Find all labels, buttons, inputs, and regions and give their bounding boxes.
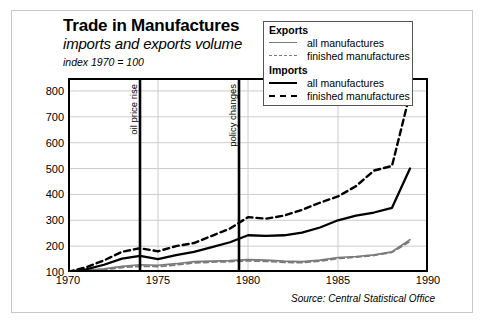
legend-item-imports-finished: finished manufactures: [269, 89, 412, 102]
plot-area: [68, 78, 428, 272]
legend-item-exports-all: all manufactures: [269, 36, 412, 49]
source-note: Source: Central Statistical Office: [291, 293, 435, 304]
x-tick-label: 1970: [56, 274, 80, 286]
y-axis-ticks: 100200300400500600700800: [30, 78, 64, 272]
y-tick-label: 600: [46, 137, 64, 149]
legend-swatch-exports-finished-icon: [269, 51, 297, 61]
y-tick-label: 800: [46, 85, 64, 97]
legend-label-imports-all: all manufactures: [307, 77, 384, 89]
legend-item-imports-all: all manufactures: [269, 76, 412, 89]
y-tick-label: 700: [46, 111, 64, 123]
x-tick-label: 1985: [326, 274, 350, 286]
legend-label-imports-finished: finished manufactures: [307, 90, 410, 102]
y-tick-label: 300: [46, 214, 64, 226]
x-tick-label: 1990: [416, 274, 440, 286]
chart-title: Trade in Manufactures: [63, 16, 239, 36]
x-tick-label: 1975: [146, 274, 170, 286]
annotation-label: oil price rise: [128, 84, 139, 135]
x-axis-ticks: 19701975198019851990: [0, 274, 485, 290]
legend-heading-exports: Exports: [269, 24, 412, 36]
plot-svg: [68, 78, 428, 272]
legend-swatch-exports-all-icon: [269, 38, 297, 48]
x-tick-label: 1980: [236, 274, 260, 286]
y-tick-label: 500: [46, 163, 64, 175]
chart-figure: Trade in Manufactures imports and export…: [0, 0, 485, 331]
index-note: index 1970 = 100: [63, 56, 144, 68]
legend-item-exports-finished: finished manufactures: [269, 49, 412, 62]
legend-heading-imports: Imports: [269, 64, 412, 76]
annotation-label: policy changes: [227, 84, 238, 147]
y-tick-label: 200: [46, 240, 64, 252]
legend: Exports all manufactures finished manufa…: [263, 21, 413, 106]
y-tick-label: 400: [46, 188, 64, 200]
legend-swatch-imports-all-icon: [269, 78, 297, 88]
legend-label-exports-finished: finished manufactures: [307, 50, 410, 62]
legend-label-exports-all: all manufactures: [307, 37, 384, 49]
chart-subtitle: imports and exports volume: [63, 35, 242, 52]
legend-swatch-imports-finished-icon: [269, 91, 297, 101]
